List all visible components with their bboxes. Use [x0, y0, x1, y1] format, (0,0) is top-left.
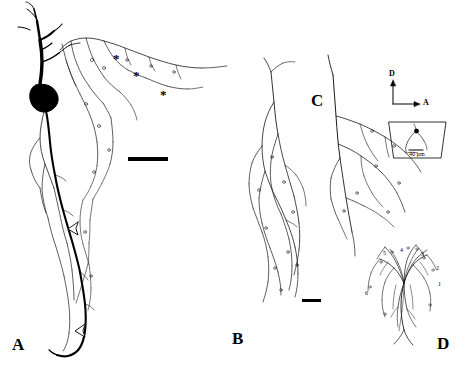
neuron-drawing	[0, 0, 465, 375]
branch-number-5: 5	[383, 250, 386, 256]
asterisk-marker-3: *	[160, 88, 167, 101]
orientation-label-anterior: A	[423, 99, 429, 107]
branch-number-4: 4	[400, 247, 403, 253]
panel-label-b: B	[232, 330, 243, 347]
branch-number-6: 6	[365, 290, 368, 296]
inset-scale-label: 40 µm	[409, 151, 425, 157]
branch-number-3: 3	[421, 251, 424, 257]
orientation-label-dorsal: D	[389, 70, 395, 78]
branch-number-1: 1	[438, 281, 441, 287]
figure-canvas: A B C D * * * D A 40 µm 5 4 3 6 2 1	[0, 0, 465, 375]
asterisk-marker-2: *	[133, 69, 140, 82]
scale-bar-panel-b	[302, 299, 321, 302]
scale-bar-panel-a	[128, 157, 168, 161]
panel-label-d: D	[437, 335, 449, 352]
panel-label-c: C	[311, 92, 323, 109]
asterisk-marker-1: *	[113, 52, 120, 65]
branch-number-2: 2	[436, 265, 439, 271]
panel-label-a: A	[12, 336, 24, 353]
